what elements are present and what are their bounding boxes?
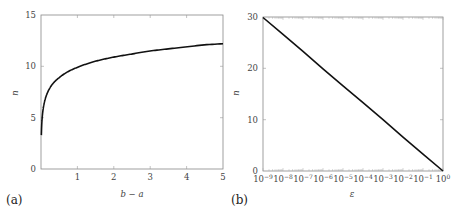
chart-b-xtick: 10−5 xyxy=(333,173,353,184)
chart-b-line xyxy=(263,18,443,171)
chart-a-ytick-15: 15 xyxy=(25,10,36,20)
chart-a-panel-label: (a) xyxy=(6,193,23,207)
chart-b-xtick: 10−8 xyxy=(273,173,293,184)
chart-a-ytick-0: 0 xyxy=(31,164,36,174)
chart-a-xtick-5: 5 xyxy=(220,172,225,182)
chart-a-ytick-5: 5 xyxy=(31,113,36,123)
figure: 0 5 10 15 1 2 3 4 5 b − a n (a) 0 10 20 … xyxy=(0,0,458,216)
chart-b-xtick-labels: 10−9 10−8 10−7 10−6 10−5 10−4 10−3 10−2 … xyxy=(253,173,450,184)
chart-b-xtick: 10−9 xyxy=(253,173,273,184)
chart-a-xlabel: b − a xyxy=(120,189,143,199)
chart-b-xtick: 10−7 xyxy=(293,173,313,184)
chart-a-xticks xyxy=(77,15,186,169)
chart-a-ylabel: n xyxy=(10,90,20,95)
chart-a-xtick-2: 2 xyxy=(111,172,116,182)
chart-a-xtick-3: 3 xyxy=(147,172,152,182)
chart-b-xtick: 10−1 xyxy=(413,173,433,184)
chart-b-ytick-20: 20 xyxy=(247,63,258,73)
chart-a-frame xyxy=(41,15,223,169)
chart-a-ytick-10: 10 xyxy=(25,61,36,71)
chart-b-ytick-30: 30 xyxy=(247,12,258,22)
chart-a-xtick-1: 1 xyxy=(75,172,80,182)
chart-b-xtick: 10−6 xyxy=(313,173,333,184)
chart-b-ylabel: n xyxy=(231,90,241,95)
chart-a: 0 5 10 15 1 2 3 4 5 b − a n (a) xyxy=(6,10,226,207)
chart-b-xtick: 100 xyxy=(436,173,451,184)
chart-b: 0 10 20 30 10−9 10−8 10−7 10−6 10−5 10−4… xyxy=(231,12,451,207)
chart-a-xtick-4: 4 xyxy=(184,172,189,182)
chart-b-xtick: 10−4 xyxy=(353,173,373,184)
chart-b-ytick-10: 10 xyxy=(247,115,258,125)
chart-b-xlabel: ε xyxy=(350,189,355,199)
chart-a-yticks xyxy=(41,66,223,117)
chart-b-xtick: 10−2 xyxy=(393,173,413,184)
chart-b-xtick: 10−3 xyxy=(373,173,393,184)
chart-b-panel-label: (b) xyxy=(231,193,248,207)
chart-a-curve xyxy=(41,44,223,135)
